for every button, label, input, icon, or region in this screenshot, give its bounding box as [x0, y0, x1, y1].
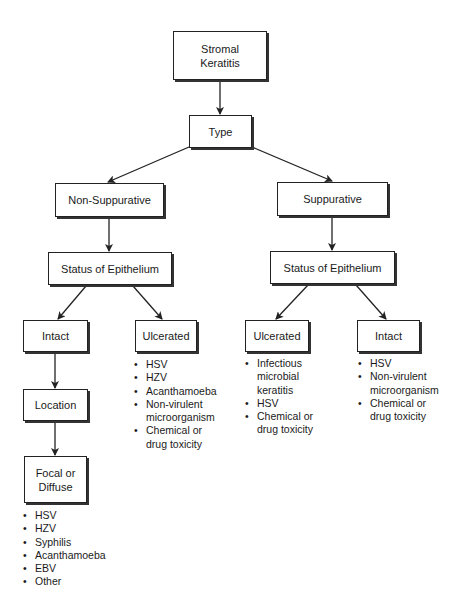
node-focal-or-diffuse: Focal or Diffuse [24, 456, 87, 503]
edge-type-nonsupp [108, 147, 189, 182]
list-item: Chemical or drug toxicity [243, 410, 333, 437]
node-ulcerated-left: Ulcerated [135, 320, 197, 352]
list-item: Non-virulent microorganism [356, 370, 456, 397]
list-item: HSV [243, 397, 333, 410]
edge-statusL-ulcer [133, 286, 162, 319]
list-item: EBV [21, 562, 121, 575]
edge-statusL-intact [58, 286, 86, 319]
edge-statusR-ulcer [276, 285, 308, 319]
list-intact-right: HSV Non-virulent microorganism Chemical … [356, 357, 456, 423]
list-ulcerated-left: HSV HZV Acanthamoeba Non-virulent microo… [132, 358, 232, 451]
list-item: Infectious microbial keratitis [243, 357, 333, 397]
list-ulcerated-right: Infectious microbial keratitis HSV Chemi… [243, 357, 333, 437]
node-label: Ulcerated [253, 329, 300, 343]
node-label: Stromal Keratitis [200, 42, 240, 70]
node-label: Intact [42, 329, 69, 343]
node-suppurative: Suppurative [277, 182, 388, 216]
list-item: HZV [132, 371, 232, 384]
edge-statusR-intact [356, 285, 386, 319]
node-status-epithelium-left: Status of Epithelium [48, 252, 172, 285]
node-label: Location [35, 398, 77, 412]
list-item: Non-virulent microorganism [132, 398, 232, 425]
list-item: HSV [356, 357, 456, 370]
node-stromal-keratitis: Stromal Keratitis [173, 31, 267, 80]
node-label: Non-Suppurative [68, 193, 151, 207]
list-item: Syphilis [21, 536, 121, 549]
node-label: Intact [375, 329, 402, 343]
list-item: HZV [21, 522, 121, 535]
list-item: Acanthamoeba [21, 549, 121, 562]
node-intact-right: Intact [357, 320, 420, 352]
node-label: Ulcerated [142, 329, 189, 343]
node-label: Status of Epithelium [284, 261, 382, 275]
list-item: Other [21, 575, 121, 588]
node-ulcerated-right: Ulcerated [245, 320, 309, 352]
node-label: Focal or Diffuse [36, 466, 76, 494]
list-item: Chemical or drug toxicity [356, 397, 456, 424]
list-item: HSV [132, 358, 232, 371]
node-location: Location [23, 389, 88, 421]
node-label: Suppurative [303, 192, 362, 206]
list-item: HSV [21, 509, 121, 522]
node-non-suppurative: Non-Suppurative [55, 183, 164, 217]
edge-type-supp [252, 147, 332, 181]
list-focal-or-diffuse: HSV HZV Syphilis Acanthamoeba EBV Other [21, 509, 121, 589]
node-label: Type [209, 125, 233, 139]
connector-layer [0, 0, 459, 595]
list-item: Acanthamoeba [132, 385, 232, 398]
node-label: Status of Epithelium [61, 262, 159, 276]
node-intact-left: Intact [23, 320, 88, 352]
node-type: Type [189, 115, 252, 148]
list-item: Chemical or drug toxicity [132, 424, 232, 451]
node-status-epithelium-right: Status of Epithelium [270, 251, 395, 284]
